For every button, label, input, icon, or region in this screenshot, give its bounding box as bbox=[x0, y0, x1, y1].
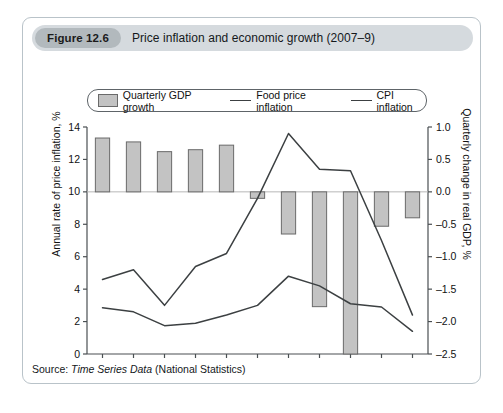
right-axis-tick-label: –2.5 bbox=[436, 348, 457, 358]
source-publisher: (National Statistics) bbox=[155, 363, 245, 375]
left-axis-tick-label: 6 bbox=[74, 250, 80, 262]
left-axis-tick-label: 0 bbox=[74, 348, 80, 358]
gdp-growth-bar bbox=[188, 150, 202, 192]
gdp-growth-bar bbox=[219, 145, 233, 192]
gdp-growth-bar bbox=[343, 192, 357, 354]
left-axis-tick-label: 8 bbox=[74, 218, 80, 230]
screenshot-page: Figure 12.6 Price inflation and economic… bbox=[0, 0, 503, 413]
chart-plot: 141210864201.00.50.0–0.5–1.0–1.5–2.0–2.5… bbox=[32, 58, 473, 358]
figure-title: Price inflation and economic growth (200… bbox=[132, 25, 375, 51]
figure-header: Figure 12.6 Price inflation and economic… bbox=[32, 25, 473, 51]
right-axis-tick-label: –1.5 bbox=[436, 283, 457, 295]
left-axis-tick-label: 4 bbox=[74, 283, 80, 295]
figure-number-badge: Figure 12.6 bbox=[35, 28, 121, 48]
gdp-growth-bar bbox=[95, 138, 109, 192]
figure-card: Figure 12.6 Price inflation and economic… bbox=[22, 17, 481, 384]
figure-source: Source: Time Series Data (National Stati… bbox=[32, 363, 246, 375]
chart-area: Quarterly GDP growth Food price inflatio… bbox=[32, 58, 473, 358]
food-price-inflation-line bbox=[103, 133, 413, 315]
gdp-growth-bar bbox=[281, 192, 295, 234]
left-axis-tick-label: 12 bbox=[68, 153, 80, 165]
right-axis-tick-label: 1.0 bbox=[436, 121, 451, 133]
gdp-growth-bar bbox=[157, 152, 171, 192]
gdp-growth-bar bbox=[374, 192, 388, 226]
gdp-growth-bar bbox=[405, 192, 419, 218]
source-prefix: Source: bbox=[32, 363, 68, 375]
left-axis-tick-label: 2 bbox=[74, 315, 80, 327]
right-axis-tick-label: –0.5 bbox=[436, 218, 457, 230]
right-axis-tick-label: 0.0 bbox=[436, 185, 451, 197]
cpi-inflation-line bbox=[103, 276, 413, 331]
left-axis-tick-label: 10 bbox=[68, 185, 80, 197]
gdp-growth-bar bbox=[126, 142, 140, 192]
left-axis-tick-label: 14 bbox=[68, 121, 80, 133]
right-axis-tick-label: 0.5 bbox=[436, 153, 451, 165]
right-axis-tick-label: –1.0 bbox=[436, 250, 457, 262]
source-title: Time Series Data bbox=[71, 363, 152, 375]
right-axis-tick-label: –2.0 bbox=[436, 315, 457, 327]
